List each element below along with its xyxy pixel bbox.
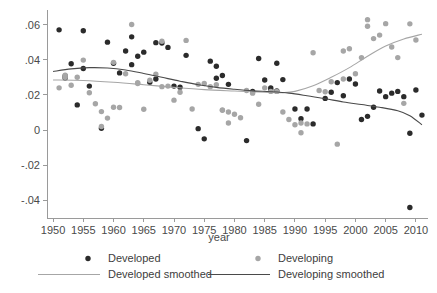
data-point (256, 56, 261, 61)
data-point (111, 60, 116, 65)
data-point (202, 136, 207, 141)
data-point (141, 107, 146, 112)
data-point (347, 76, 352, 81)
y-tick-label: .02 (25, 89, 40, 101)
data-point (371, 36, 376, 41)
data-point (262, 85, 267, 90)
data-series-layer (53, 17, 425, 210)
data-point (292, 106, 297, 111)
data-point (135, 54, 140, 59)
x-tick-label: 1995 (313, 224, 337, 236)
data-point (226, 120, 231, 125)
legend-label: Developed smoothed (108, 268, 212, 280)
data-point (87, 83, 92, 88)
legend-entry[interactable]: Developing smoothed (208, 268, 384, 280)
x-tick-label: 1950 (41, 224, 65, 236)
data-point (335, 141, 340, 146)
x-axis-title: year (208, 231, 230, 243)
legend-dot-icon (255, 256, 260, 261)
data-point (159, 39, 164, 44)
data-point (365, 114, 370, 119)
data-point (280, 109, 285, 114)
legend-label: Developing smoothed (278, 268, 384, 280)
data-point (75, 75, 80, 80)
x-tick-label: 1985 (252, 224, 276, 236)
data-point (347, 46, 352, 51)
y-tick-label: 0 (34, 124, 40, 136)
data-point (214, 64, 219, 69)
data-point (377, 88, 382, 93)
data-point (56, 27, 61, 32)
data-point (310, 50, 315, 55)
data-point (395, 89, 400, 94)
axis-layer (47, 10, 428, 218)
data-point (413, 87, 418, 92)
data-point (389, 44, 394, 49)
chart-legend: DevelopedDevelopingDeveloped smoothedDev… (38, 252, 384, 280)
data-point (117, 105, 122, 110)
data-point (341, 76, 346, 81)
data-point (226, 109, 231, 114)
data-point (195, 126, 200, 131)
data-point (322, 89, 327, 94)
legend-entry[interactable]: Developing (255, 252, 333, 264)
data-point (232, 112, 237, 117)
legend-entry[interactable]: Developed smoothed (38, 268, 212, 280)
data-point (99, 124, 104, 129)
data-point (377, 32, 382, 37)
legend-entry[interactable]: Developed (85, 252, 160, 264)
x-tick-layer: 1950195519601965197019751980198519901995… (41, 218, 428, 236)
y-tick-label: -.02 (21, 159, 40, 171)
data-point (383, 21, 388, 26)
data-point (56, 85, 61, 90)
data-point (274, 89, 279, 94)
data-point (341, 48, 346, 53)
data-point (189, 106, 194, 111)
data-point (123, 71, 128, 76)
data-point (87, 90, 92, 95)
x-tick-label: 1990 (283, 224, 307, 236)
data-point (244, 138, 249, 143)
data-point (81, 28, 86, 33)
data-point (226, 82, 231, 87)
data-point (298, 130, 303, 135)
data-point (129, 62, 134, 67)
data-point (407, 131, 412, 136)
data-point (81, 57, 86, 62)
data-point (395, 55, 400, 60)
data-point (329, 90, 334, 95)
data-point (353, 71, 358, 76)
data-point (292, 122, 297, 127)
data-point (220, 73, 225, 78)
data-point (286, 117, 291, 122)
data-point (316, 88, 321, 93)
data-point (407, 205, 412, 210)
data-point (365, 17, 370, 22)
data-point (298, 120, 303, 125)
y-tick-label: -.04 (21, 194, 40, 206)
data-point (99, 109, 104, 114)
data-point (147, 78, 152, 83)
legend-label: Developed (108, 252, 161, 264)
data-point (208, 58, 213, 63)
data-point (407, 21, 412, 26)
data-point (413, 37, 418, 42)
data-point (153, 40, 158, 45)
data-point (401, 101, 406, 106)
data-point (105, 115, 110, 120)
data-point (68, 83, 73, 88)
data-point (129, 22, 134, 27)
data-point (105, 39, 110, 44)
data-point (129, 34, 134, 39)
data-point (335, 80, 340, 85)
data-point (141, 49, 146, 54)
data-point (256, 102, 261, 107)
data-point (304, 106, 309, 111)
data-point (183, 53, 188, 58)
data-point (304, 121, 309, 126)
data-point (153, 76, 158, 81)
y-tick-layer: .06.04.020-.02-.04 (21, 19, 47, 207)
data-point (220, 107, 225, 112)
data-point (371, 105, 376, 110)
x-tick-label: 1960 (101, 224, 125, 236)
